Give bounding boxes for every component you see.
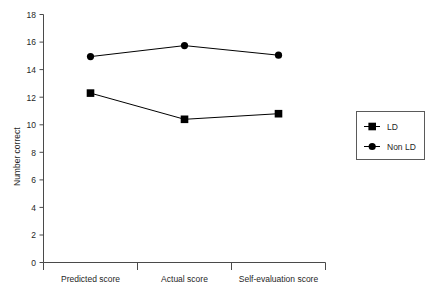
y-tick-label-16: 16	[27, 37, 37, 47]
data-point-ld-predicted-score	[87, 89, 95, 97]
y-tick-label-8: 8	[31, 148, 36, 158]
series-markers-non-ld	[87, 42, 282, 60]
x-category-label-self-evaluation-score: Self-evaluation score	[239, 274, 319, 284]
square-marker-icon	[368, 123, 376, 131]
legend-border	[357, 112, 425, 160]
chart-legend: LD Non LD	[357, 112, 425, 160]
y-axis-ticks: 18 16 14 12 10 8 6 4 2 0	[27, 10, 44, 268]
series-markers-ld	[87, 89, 283, 123]
y-tick-label-12: 12	[27, 93, 37, 103]
y-tick-label-18: 18	[27, 10, 37, 20]
data-point-non-ld-actual-score	[181, 42, 188, 49]
data-point-ld-actual-score	[181, 116, 189, 124]
series-line-ld	[91, 93, 279, 119]
x-category-label-actual-score: Actual score	[161, 274, 208, 284]
y-tick-label-0: 0	[31, 258, 36, 268]
data-point-non-ld-predicted-score	[87, 53, 94, 60]
chart-canvas: Number correct 18 16 14 12 10 8 6 4 2	[0, 0, 434, 297]
y-tick-label-14: 14	[27, 65, 37, 75]
data-point-non-ld-self-evaluation-score	[275, 52, 282, 59]
data-point-ld-self-evaluation-score	[275, 110, 283, 118]
y-tick-label-6: 6	[31, 175, 36, 185]
x-category-label-predicted-score: Predicted score	[61, 274, 120, 284]
x-axis-ticks	[44, 263, 326, 271]
y-tick-label-2: 2	[31, 230, 36, 240]
legend-label-ld: LD	[387, 122, 398, 132]
y-axis-title: Number correct	[12, 127, 22, 186]
chart-figure: Number correct 18 16 14 12 10 8 6 4 2	[0, 0, 434, 297]
y-tick-label-4: 4	[31, 203, 36, 213]
y-tick-label-10: 10	[27, 120, 37, 130]
circle-marker-icon	[369, 143, 376, 150]
legend-label-non-ld: Non LD	[387, 142, 416, 152]
